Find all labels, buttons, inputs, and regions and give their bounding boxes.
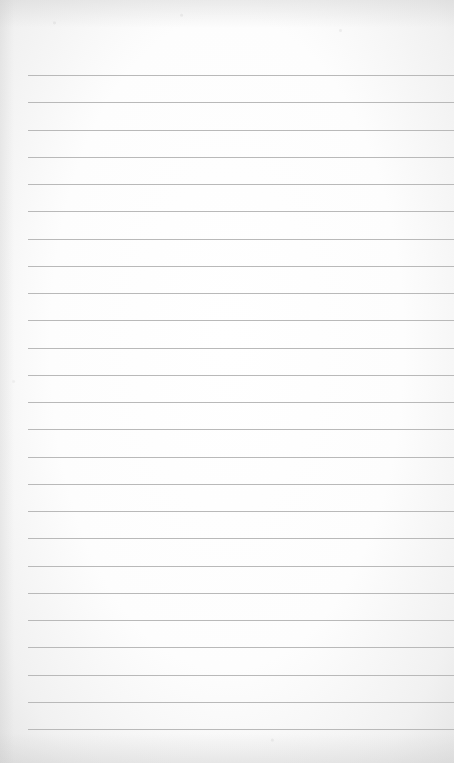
ruled-line [28,130,454,131]
paper-texture [0,0,454,763]
ruled-line [28,239,454,240]
paper-edge-left [0,0,14,763]
ruled-line [28,102,454,103]
ruled-line [28,675,454,676]
ruled-line [28,511,454,512]
ruled-line [28,729,454,730]
ruled-line [28,647,454,648]
ruled-line [28,348,454,349]
ruled-line [28,702,454,703]
ruled-line [28,320,454,321]
ruled-line [28,402,454,403]
ruled-line [28,157,454,158]
ruled-line [28,266,454,267]
lined-paper [0,0,454,763]
ruled-line [28,211,454,212]
ruled-line [28,184,454,185]
ruled-line [28,620,454,621]
ruled-line [28,484,454,485]
paper-edge-top [0,0,454,28]
ruled-line [28,429,454,430]
ruled-line [28,75,454,76]
ruled-line [28,457,454,458]
ruled-line [28,293,454,294]
ruled-line [28,538,454,539]
ruled-line [28,375,454,376]
paper-edge-bottom [0,733,454,763]
ruled-line [28,566,454,567]
ruled-line [28,593,454,594]
